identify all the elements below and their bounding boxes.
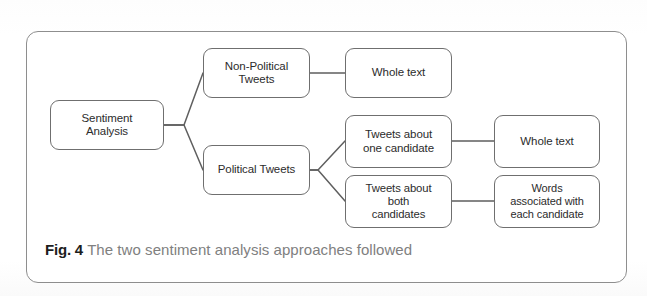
node-tweets-one-candidate-label: Tweets about one candidate xyxy=(363,128,434,155)
node-political-tweets: Political Tweets xyxy=(203,145,310,195)
node-words-associated-label: Words associated with each candidate xyxy=(510,182,584,221)
edge-political-to-onecandidate xyxy=(310,141,345,170)
node-political-tweets-label: Political Tweets xyxy=(218,163,295,177)
figure-caption-label: Fig. 4 xyxy=(45,241,83,258)
node-whole-text-right-label: Whole text xyxy=(520,135,573,149)
node-whole-text-top-label: Whole text xyxy=(372,66,425,80)
node-tweets-both-candidates: Tweets about both candidates xyxy=(345,175,452,228)
edge-political-to-bothcandidates xyxy=(310,170,345,201)
figure-caption-text: The two sentiment analysis approaches fo… xyxy=(87,241,412,258)
node-whole-text-top: Whole text xyxy=(345,48,452,98)
node-words-associated: Words associated with each candidate xyxy=(494,175,600,228)
figure-caption: Fig. 4 The two sentiment analysis approa… xyxy=(45,240,605,259)
node-sentiment-analysis-label: Sentiment Analysis xyxy=(82,112,133,139)
figure-screenshot: Sentiment Analysis Non-Political Tweets … xyxy=(0,0,647,296)
node-non-political-tweets: Non-Political Tweets xyxy=(203,48,310,98)
edge-sentiment-to-nonpolitical xyxy=(164,73,203,125)
node-non-political-tweets-label: Non-Political Tweets xyxy=(225,60,288,87)
node-whole-text-right: Whole text xyxy=(494,115,600,168)
node-sentiment-analysis: Sentiment Analysis xyxy=(50,100,164,150)
node-tweets-one-candidate: Tweets about one candidate xyxy=(345,115,452,168)
edge-sentiment-to-political xyxy=(164,125,203,170)
node-tweets-both-candidates-label: Tweets about both candidates xyxy=(366,182,432,220)
